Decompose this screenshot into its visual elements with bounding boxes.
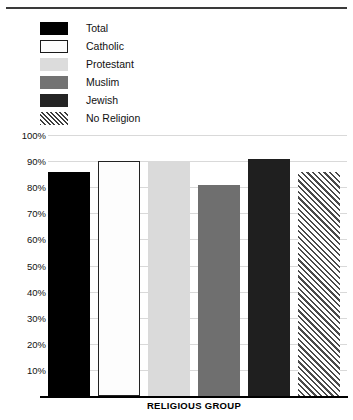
header-divider <box>6 7 347 9</box>
legend-item-protestant: Protestant <box>40 55 220 73</box>
legend-item-muslim: Muslim <box>40 73 220 91</box>
bar-catholic <box>98 161 140 396</box>
bar-protestant <box>148 161 190 396</box>
bar-jewish <box>248 159 290 397</box>
bar-muslim <box>198 185 240 396</box>
legend-swatch-protestant-icon <box>40 58 68 71</box>
legend-item-total: Total <box>40 19 220 37</box>
legend-swatch-total-icon <box>40 22 68 35</box>
legend-label-protestant: Protestant <box>86 59 134 70</box>
bar-series <box>0 130 353 396</box>
legend-swatch-jewish-icon <box>40 94 68 107</box>
legend-swatch-no-religion-icon <box>40 112 68 125</box>
legend-label-muslim: Muslim <box>86 77 119 88</box>
legend-item-catholic: Catholic <box>40 37 220 55</box>
bar-no-religion <box>298 172 340 396</box>
plot-area: 100%90%80%70%60%50%40%30%20%10% <box>0 128 353 398</box>
legend-label-total: Total <box>86 23 108 34</box>
legend-swatch-muslim-icon <box>40 76 68 89</box>
legend-item-no-religion: No Religion <box>40 109 220 127</box>
legend-swatch-catholic-icon <box>40 40 68 53</box>
legend-item-jewish: Jewish <box>40 91 220 109</box>
legend-label-jewish: Jewish <box>86 95 118 106</box>
x-axis-line <box>40 396 348 398</box>
x-axis-title: RELIGIOUS GROUP <box>40 400 348 411</box>
bar-chart: Total Catholic Protestant Muslim Jewish … <box>0 0 353 420</box>
legend-label-no-religion: No Religion <box>86 113 140 124</box>
legend-label-catholic: Catholic <box>86 41 124 52</box>
bar-total <box>48 172 90 396</box>
chart-legend: Total Catholic Protestant Muslim Jewish … <box>40 19 220 127</box>
